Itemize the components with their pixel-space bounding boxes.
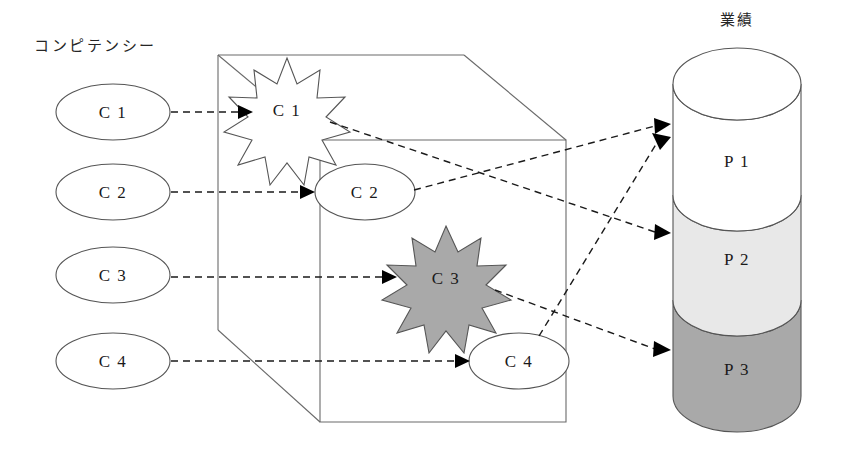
cube-bottom-left-edge (218, 330, 320, 422)
arrowhead-icon (653, 341, 671, 357)
node-label: C 4 (505, 352, 534, 371)
node-c2-source[interactable]: C 2 (56, 164, 170, 220)
cube-inner-nodes: C 1 C 2 C 3 C 4 (224, 58, 569, 389)
cylinder-top-cap (673, 48, 801, 120)
arrowhead-icon (654, 118, 671, 134)
connection-c4-inner-to-p1 (539, 133, 671, 336)
concept-flow-diagram: コンピテンシー C 1 C 2 C 3 C 4 (0, 0, 858, 461)
segment-label: P 3 (724, 360, 750, 379)
segment-label: P 2 (724, 250, 750, 269)
diagram-canvas: コンピテンシー C 1 C 2 C 3 C 4 (0, 0, 858, 461)
arrowhead-icon (455, 354, 470, 368)
connector-line (539, 141, 658, 336)
node-c4-source[interactable]: C 4 (56, 333, 170, 389)
left-source-nodes: C 1 C 2 C 3 C 4 (56, 84, 170, 389)
performance-cylinder: P 3 P 2 P 1 (673, 48, 801, 432)
node-label: C 3 (432, 269, 461, 288)
node-label: C 1 (273, 101, 302, 120)
node-c4-inner[interactable]: C 4 (469, 333, 569, 389)
node-label: C 2 (99, 183, 128, 202)
segment-label: P 1 (724, 152, 750, 171)
node-label: C 4 (99, 352, 128, 371)
node-c3-inner[interactable]: C 3 (382, 226, 511, 353)
node-c2-inner[interactable]: C 2 (315, 164, 415, 220)
connections-cube-to-cylinder (330, 118, 671, 357)
connection-c1-source-to-c1-inner (171, 105, 253, 119)
node-c1-source[interactable]: C 1 (56, 84, 170, 140)
node-label: C 1 (99, 103, 128, 122)
burst-star-shape (224, 58, 350, 185)
connection-c2-inner-to-p1 (414, 118, 671, 190)
cube-top-right-edge (464, 55, 566, 140)
node-c3-source[interactable]: C 3 (56, 247, 170, 303)
node-c1-inner[interactable]: C 1 (224, 58, 350, 185)
connection-c3-source-to-c3-inner (171, 270, 397, 284)
node-label: C 2 (351, 183, 380, 202)
node-label: C 3 (99, 266, 128, 285)
burst-star-shape (382, 226, 511, 353)
connector-line (414, 126, 655, 190)
left-group-title: コンピテンシー (34, 37, 157, 55)
right-group-title: 業績 (720, 11, 755, 29)
connection-c2-source-to-c2-inner (171, 185, 315, 199)
arrowhead-icon (654, 224, 671, 240)
arrowhead-icon (300, 185, 315, 199)
